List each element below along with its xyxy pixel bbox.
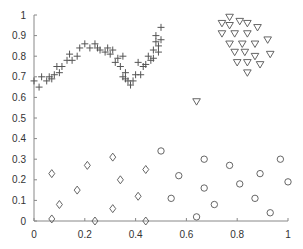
x-tick-label: 0: [31, 229, 37, 240]
triangle-down-marker: [236, 18, 244, 24]
x-tick-label: 0.6: [179, 229, 193, 240]
triangle-down-marker: [218, 31, 226, 37]
plus-marker: [38, 73, 45, 80]
triangle-down-marker: [238, 41, 246, 47]
series-circle: [158, 148, 291, 220]
y-tick-label: 0.3: [12, 154, 26, 165]
plus-marker: [117, 63, 124, 70]
plus-marker: [86, 44, 93, 51]
plus-marker: [76, 44, 83, 51]
triangle-down-marker: [244, 31, 252, 37]
series-diamond: [49, 153, 149, 225]
plus-marker: [58, 63, 65, 70]
circle-marker: [201, 156, 207, 162]
diamond-marker: [74, 186, 80, 194]
circle-marker: [201, 185, 207, 191]
plus-marker: [81, 40, 88, 47]
diamond-marker: [143, 166, 149, 174]
circle-marker: [252, 195, 258, 201]
diamond-marker: [84, 161, 90, 169]
triangle-down-marker: [241, 49, 249, 55]
y-tick-label: 0.4: [12, 133, 26, 144]
diamond-marker: [110, 153, 116, 161]
y-tick-label: 0.1: [12, 195, 26, 206]
plot-area: 00.20.40.60.8100.10.20.30.40.50.60.70.80…: [0, 0, 303, 249]
diamond-marker: [49, 170, 55, 178]
triangle-down-marker: [251, 53, 259, 59]
circle-marker: [285, 179, 291, 185]
circle-marker: [257, 170, 263, 176]
x-tick-label: 1: [285, 229, 291, 240]
triangle-down-marker: [218, 20, 226, 26]
diamond-marker: [49, 215, 55, 223]
circle-marker: [176, 172, 182, 178]
circle-marker: [226, 162, 232, 168]
plus-marker: [158, 24, 165, 31]
y-tick-label: 0.5: [12, 113, 26, 124]
plus-marker: [137, 71, 144, 78]
triangle-down-marker: [254, 25, 262, 31]
triangle-down-marker: [251, 41, 259, 47]
triangle-down-marker: [264, 37, 272, 43]
triangle-down-marker: [266, 51, 274, 57]
y-tick-label: 1: [20, 10, 26, 21]
y-tick-label: 0.8: [12, 51, 26, 62]
triangle-down-marker: [256, 62, 264, 68]
diamond-marker: [117, 176, 123, 184]
triangle-down-marker: [226, 23, 234, 29]
circle-marker: [211, 201, 217, 207]
triangle-down-marker: [226, 14, 234, 20]
scatter-chart: 00.20.40.60.8100.10.20.30.40.50.60.70.80…: [0, 0, 303, 249]
triangle-down-marker: [231, 31, 239, 37]
y-tick-label: 0.7: [12, 71, 26, 82]
x-tick-label: 0.8: [230, 229, 244, 240]
x-tick-label: 0.4: [129, 229, 143, 240]
triangle-down-marker: [226, 41, 234, 47]
data-markers: [31, 14, 292, 225]
y-tick-label: 0: [20, 216, 26, 227]
triangle-down-marker: [231, 49, 239, 55]
tick-labels: 00.20.40.60.8100.10.20.30.40.50.60.70.80…: [12, 10, 291, 241]
series-triangle: [193, 14, 274, 105]
plus-marker: [152, 32, 159, 39]
y-tick-label: 0.9: [12, 30, 26, 41]
triangle-down-marker: [244, 60, 252, 66]
y-tick-label: 0.2: [12, 174, 26, 185]
plus-marker: [69, 57, 76, 64]
circle-marker: [267, 210, 273, 216]
circle-marker: [193, 214, 199, 220]
plus-marker: [135, 59, 142, 66]
triangle-down-marker: [193, 99, 201, 105]
plus-marker: [31, 77, 38, 84]
diamond-marker: [56, 201, 62, 209]
circle-marker: [237, 181, 243, 187]
diamond-marker: [110, 205, 116, 213]
diamond-marker: [135, 192, 141, 200]
x-tick-label: 0.2: [78, 229, 92, 240]
y-tick-label: 0.6: [12, 92, 26, 103]
triangle-down-marker: [244, 70, 252, 76]
triangle-down-marker: [244, 20, 252, 26]
triangle-down-marker: [233, 60, 241, 66]
series-plus: [31, 24, 165, 91]
circle-marker: [277, 156, 283, 162]
plus-marker: [36, 84, 43, 91]
plus-marker: [66, 51, 73, 58]
circle-marker: [168, 195, 174, 201]
circle-marker: [158, 148, 164, 154]
plus-marker: [74, 53, 81, 60]
